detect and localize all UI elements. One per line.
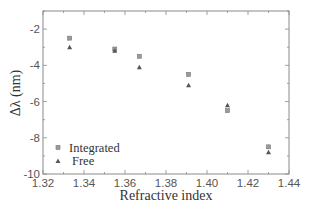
y-tick-label: -10 (23, 168, 40, 180)
y-tick-label: -8 (30, 132, 40, 144)
y-tick-label: -6 (30, 96, 40, 108)
integrated-point (68, 36, 72, 40)
x-tick-label: 1.42 (237, 177, 259, 189)
legend-triangle-icon (56, 159, 61, 164)
legend: Integrated Free (56, 141, 121, 168)
integrated-point (226, 109, 230, 113)
integrated-point (187, 72, 191, 76)
integrated-point (267, 145, 271, 149)
x-tick-label: 1.44 (278, 177, 301, 189)
axis-ticks: 1.321.341.361.381.401.421.44-2-4-6-8-10 (23, 11, 300, 189)
data-points (67, 36, 271, 154)
legend-label-integrated: Integrated (69, 141, 120, 155)
legend-square-icon (56, 146, 60, 150)
legend-label-free: Free (72, 154, 95, 168)
integrated-point (137, 54, 141, 58)
x-axis-title: Refractive index (120, 188, 213, 203)
free-point (266, 150, 271, 155)
free-point (225, 103, 230, 108)
chart-canvas: 1.321.341.361.381.401.421.44-2-4-6-8-10 … (0, 0, 311, 208)
free-point (67, 45, 72, 50)
y-tick-label: -2 (30, 23, 40, 35)
y-tick-label: -4 (30, 59, 41, 71)
y-axis-title: Δλ (nm) (8, 69, 24, 116)
free-point (137, 65, 142, 70)
x-tick-label: 1.34 (73, 177, 96, 189)
free-point (186, 83, 191, 88)
